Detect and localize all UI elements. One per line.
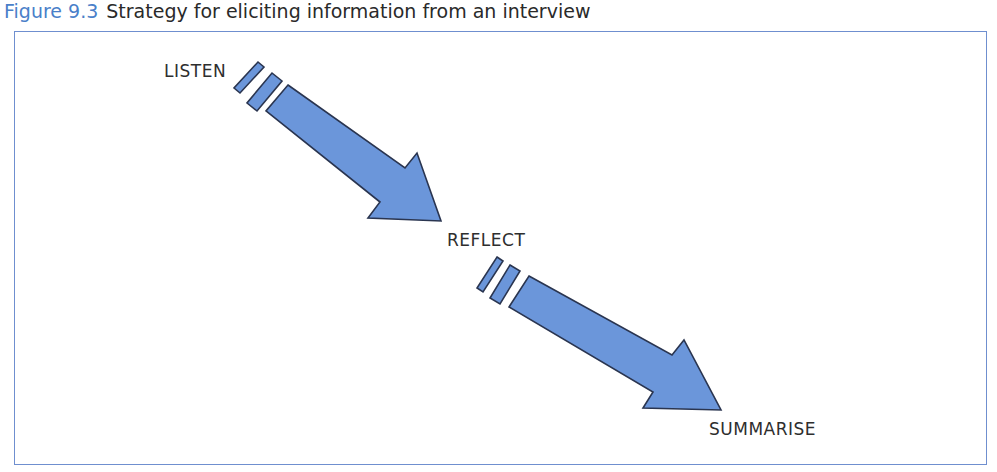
step-label-listen: LISTEN [164,61,226,81]
step-label-summarise: SUMMARISE [709,419,816,439]
arrow-listen-to-reflect-icon [234,62,441,221]
arrow-shaft-head [266,85,441,221]
step-label-reflect: REFLECT [447,230,525,250]
arrow-shaft-head [509,276,721,410]
arrow-reflect-to-summarise-icon [477,257,721,410]
